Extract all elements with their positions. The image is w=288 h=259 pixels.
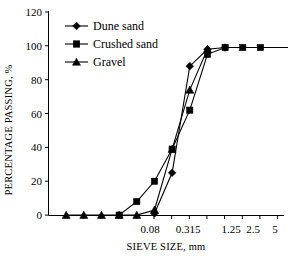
x-tick-label: 0.08: [140, 223, 160, 235]
legend-item-label: Crushed sand: [93, 37, 158, 51]
series-line: [119, 48, 288, 216]
square-icon: [257, 44, 263, 50]
x-tick-label: 5: [272, 223, 278, 235]
x-tick-label: 2.5: [246, 223, 260, 235]
y-axis-ticks: [45, 12, 49, 215]
diamond-icon: [168, 169, 176, 177]
triangle-icon: [186, 86, 194, 93]
chart-container: 120 100 80 60 40 20 0 0.08 0.: [0, 0, 288, 259]
y-tick-label: 80: [31, 74, 43, 86]
legend-item-crushed-sand[interactable]: Crushed sand: [65, 37, 158, 51]
x-tick-label: 1.25: [221, 223, 241, 235]
series-line: [154, 48, 225, 214]
y-axis-title: PERCENTAGE PASSING, %: [3, 64, 14, 195]
x-axis-title: SIEVE SIZE, mm: [127, 241, 206, 252]
chart-legend: Dune sand Crushed sand Gravel: [65, 19, 158, 69]
square-icon: [240, 44, 246, 50]
series-dune-sand: [151, 44, 229, 217]
square-icon: [73, 41, 79, 47]
y-axis-tick-labels: 120 100 80 60 40 20 0: [26, 6, 43, 221]
square-icon: [134, 198, 140, 204]
y-tick-label: 20: [31, 175, 43, 187]
legend-item-gravel[interactable]: Gravel: [65, 55, 126, 69]
square-icon: [151, 178, 157, 184]
series-line: [66, 49, 207, 215]
legend-item-label: Dune sand: [93, 19, 144, 33]
legend-item-dune-sand[interactable]: Dune sand: [65, 19, 144, 33]
x-tick-label: 0.315: [176, 223, 201, 235]
y-tick-label: 40: [31, 141, 43, 153]
y-tick-label: 100: [26, 40, 43, 52]
series-crushed-sand: [116, 44, 288, 218]
diamond-icon: [73, 22, 81, 30]
sieve-analysis-chart: 120 100 80 60 40 20 0 0.08 0.: [0, 0, 288, 259]
square-icon: [222, 44, 228, 50]
square-icon: [187, 107, 193, 113]
y-tick-label: 0: [37, 209, 43, 221]
legend-item-label: Gravel: [93, 55, 126, 69]
x-axis-tick-labels: 0.08 0.315 1.25 2.5 5: [140, 223, 278, 235]
y-tick-label: 60: [31, 108, 43, 120]
y-tick-label: 120: [26, 6, 43, 18]
data-series-layer: [62, 44, 288, 219]
